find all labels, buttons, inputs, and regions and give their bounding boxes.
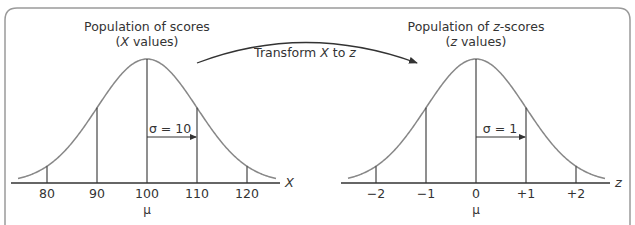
left-axis-variable: X: [284, 175, 295, 190]
right-tick-plus2: +2: [567, 186, 585, 201]
left-panel-x-distribution: Population of scores (X values) X 80 90 …: [11, 19, 295, 217]
right-tick-minus2: −2: [367, 186, 385, 201]
left-tick-100: 100: [135, 186, 159, 201]
left-tick-80: 80: [39, 186, 55, 201]
transform-label: Transform X to z: [253, 45, 356, 60]
left-sigma-label: σ = 10: [149, 121, 191, 136]
left-mean-symbol: μ: [143, 203, 151, 217]
right-panel-z-distribution: Population of z-scores (z values) z −2 −…: [341, 19, 623, 217]
right-axis-variable: z: [614, 175, 623, 190]
left-title-line1: Population of scores: [84, 19, 210, 34]
right-sd-lines: [376, 59, 576, 183]
left-tick-110: 110: [185, 186, 209, 201]
right-mean-symbol: μ: [472, 203, 480, 217]
left-sd-lines: [47, 59, 247, 183]
left-tick-120: 120: [235, 186, 259, 201]
z-score-transformation-diagram: Population of scores (X values) X 80 90 …: [0, 0, 635, 225]
right-tick-minus1: −1: [417, 186, 435, 201]
right-title-line2: (z values): [446, 34, 507, 49]
right-tick-plus1: +1: [517, 186, 535, 201]
left-tick-90: 90: [89, 186, 105, 201]
left-title-line2: (X values): [116, 34, 179, 49]
right-tick-0: 0: [472, 186, 480, 201]
right-sigma-label: σ = 1: [483, 121, 517, 136]
right-title-line1: Population of z-scores: [408, 19, 545, 34]
transform-arrow: Transform X to z: [197, 43, 417, 64]
